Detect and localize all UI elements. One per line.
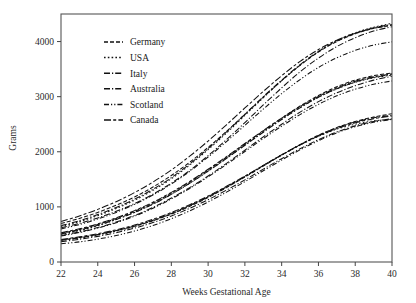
- x-tick-label-40: 40: [387, 269, 397, 279]
- legend-label-italy: Italy: [130, 69, 148, 79]
- x-tick-label-34: 34: [277, 269, 287, 279]
- legend-label-germany: Germany: [130, 37, 166, 47]
- x-tick-label-26: 26: [130, 269, 140, 279]
- y-tick-label-0: 0: [49, 257, 54, 267]
- x-tick-label-36: 36: [314, 269, 324, 279]
- chart-container: 22242628303234363840 01000200030004000 W…: [0, 0, 416, 303]
- growth-curve-chart: 22242628303234363840 01000200030004000 W…: [0, 0, 416, 303]
- y-tick-label-1000: 1000: [35, 202, 54, 212]
- x-axis-title: Weeks Gestational Age: [182, 287, 270, 297]
- chart-background: [0, 0, 416, 303]
- legend-label-scotland: Scotland: [130, 100, 163, 110]
- y-tick-label-3000: 3000: [35, 92, 54, 102]
- x-tick-label-24: 24: [93, 269, 103, 279]
- y-tick-label-4000: 4000: [35, 37, 54, 47]
- y-axis-title: Grams: [8, 125, 18, 151]
- x-tick-label-22: 22: [56, 269, 66, 279]
- legend-label-australia: Australia: [130, 84, 166, 94]
- x-tick-label-32: 32: [240, 269, 250, 279]
- x-tick-label-30: 30: [203, 269, 213, 279]
- legend-label-usa: USA: [130, 53, 149, 63]
- y-tick-label-2000: 2000: [35, 147, 54, 157]
- legend-label-canada: Canada: [130, 115, 159, 125]
- x-tick-label-28: 28: [167, 269, 177, 279]
- x-tick-label-38: 38: [350, 269, 360, 279]
